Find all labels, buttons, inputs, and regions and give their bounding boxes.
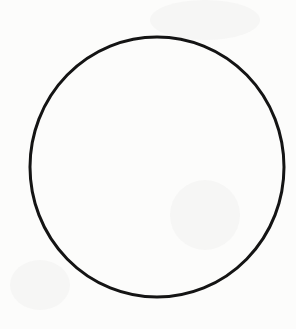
paper-texture [150, 0, 260, 40]
diagram-canvas [0, 0, 296, 329]
paper-texture [170, 180, 240, 250]
circle-outline [30, 37, 284, 297]
paper-texture [10, 260, 70, 310]
